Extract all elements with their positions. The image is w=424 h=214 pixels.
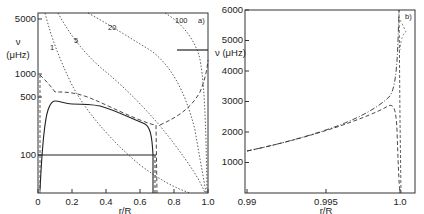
panel-a-ylabel-nu: ν	[16, 36, 21, 47]
panel-a-ytick-500: 500	[20, 91, 36, 102]
panel-b-ytick-2000: 2000	[222, 126, 243, 137]
panel-b-x-ticks	[247, 189, 400, 193]
curve-l5	[58, 13, 205, 193]
panel-a-xtick-1.0: 1.0	[201, 196, 214, 207]
panel-b-ytick-5000: 5000	[222, 34, 243, 45]
panel-a-label: a)	[198, 16, 205, 25]
curve-n-dashed	[40, 75, 157, 193]
panel-a-ytick-5000: 5000	[15, 13, 36, 24]
curve-n-solid	[40, 101, 153, 193]
curve-b-dashed-2	[399, 10, 401, 193]
panel-b-xtick-0.99: 0.99	[238, 196, 257, 207]
panel-a: 5000 1000 500 100 ν (μHz) 0 0.2 0.4 0.6 …	[6, 13, 214, 214]
curve-l20	[88, 13, 206, 193]
panel-b-xlabel: r/R	[320, 205, 333, 214]
panel-b: 6000 5000 4000 3000 2000 1000 ν (μHz) 0.…	[215, 4, 415, 214]
curve-l100	[165, 13, 207, 193]
panel-a-xtick-0.4: 0.4	[99, 196, 112, 207]
panel-b-label: b)	[405, 12, 412, 21]
curve-label-20: 20	[108, 23, 116, 32]
curve-label-1: 1	[50, 43, 54, 52]
figure: 5000 1000 500 100 ν (μHz) 0 0.2 0.4 0.6 …	[0, 0, 424, 214]
panel-b-frame	[245, 10, 415, 193]
panel-a-ytick-1000: 1000	[15, 68, 36, 79]
curve-n-dashed-outer	[160, 60, 208, 125]
panel-a-xtick-0: 0	[35, 196, 40, 207]
panel-a-xlabel: r/R	[119, 205, 132, 214]
panel-b-ylabel: ν (μHz)	[215, 47, 246, 58]
panel-b-ytick-6000: 6000	[222, 4, 243, 15]
panel-b-ytick-4000: 4000	[222, 65, 243, 76]
panel-a-xtick-0.6: 0.6	[133, 196, 146, 207]
curve-label-100: 100	[175, 16, 188, 25]
panel-a-ytick-100: 100	[20, 149, 36, 160]
curve-label-5: 5	[74, 36, 78, 45]
panel-b-ytick-3000: 3000	[222, 95, 243, 106]
curve-b-dashed	[247, 105, 400, 193]
panel-a-ylabel-unit: (μHz)	[6, 49, 29, 60]
panel-a-x-ticks	[38, 189, 208, 193]
panel-b-xtick-1.0: 1.0	[393, 196, 406, 207]
panel-b-y-ticks	[245, 10, 249, 163]
panel-b-ytick-1000: 1000	[222, 156, 243, 167]
panel-a-xtick-0.2: 0.2	[65, 196, 78, 207]
curve-b-top-wiggle	[400, 20, 406, 50]
panel-a-xtick-0.8: 0.8	[167, 196, 180, 207]
curve-b-dashdot	[247, 10, 399, 151]
